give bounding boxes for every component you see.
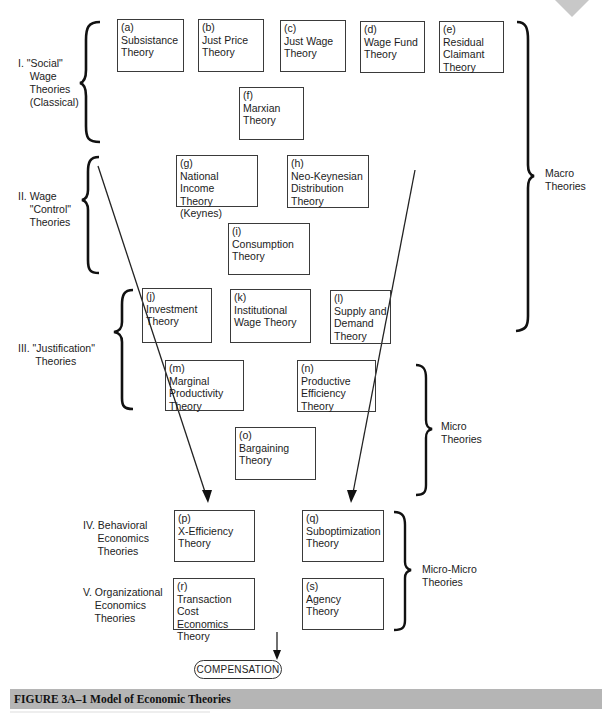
theory-box-marxian: (f)Marxian Theory <box>239 87 304 140</box>
figure-caption: FIGURE 3A–1 Model of Economic Theories <box>10 689 602 709</box>
theory-box-marginal-productivity: (m)Marginal Productivity Theory <box>165 360 244 411</box>
group-label-organizational: V. Organizational Economics Theories <box>83 586 163 625</box>
theory-box-wage-fund: (d)Wage Fund Theory <box>360 21 425 73</box>
theory-box-neo-keynesian: (h)Neo-Keynesian Distribution Theory <box>287 155 369 208</box>
theory-box-just-wage: (c)Just Wage Theory <box>280 20 346 72</box>
theory-box-agency: (s)Agency Theory <box>302 578 384 630</box>
theory-box-residual-claimant: (e)Residual Claimant Theory <box>439 21 504 73</box>
group-label-justification: III. "Justification" Theories <box>18 342 95 368</box>
theory-box-supply-demand: (l)Supply and Demand Theory <box>330 290 391 344</box>
scope-label-micro-micro: Micro-Micro Theories <box>422 563 477 589</box>
theory-box-suboptimization: (q)Suboptimization Theory <box>302 510 384 562</box>
theory-box-just-price: (b)Just Price Theory <box>198 19 264 72</box>
compensation-node: COMPENSATION <box>194 660 282 679</box>
group-label-behavioral: IV. Behavioral Economics Theories <box>83 519 149 558</box>
theory-box-investment: (j)Investment Theory <box>142 288 212 343</box>
scope-label-macro: Macro Theories <box>545 167 586 193</box>
theory-box-x-efficiency: (p)X-Efficiency Theory <box>174 510 255 562</box>
theory-box-transaction-cost: (r)Transaction Cost Economics Theory <box>173 578 255 630</box>
theory-box-subsistance: (a)Subsistance Theory <box>117 19 184 72</box>
group-label-social-wage: I. "Social" Wage Theories (Classical) <box>18 57 79 109</box>
theory-box-consumption: (i)Consumption Theory <box>228 223 310 275</box>
theory-box-bargaining: (o)Bargaining Theory <box>235 427 316 480</box>
group-label-wage-control: II. Wage "Control" Theories <box>18 190 71 229</box>
scope-label-micro: Micro Theories <box>441 420 482 446</box>
theory-box-productive-efficiency: (n)Productive Efficiency Theory <box>297 360 376 412</box>
theory-box-institutional-wage: (k)Institutional Wage Theory <box>230 289 311 343</box>
theory-box-national-income: (g)National Income Theory (Keynes) <box>176 155 258 207</box>
